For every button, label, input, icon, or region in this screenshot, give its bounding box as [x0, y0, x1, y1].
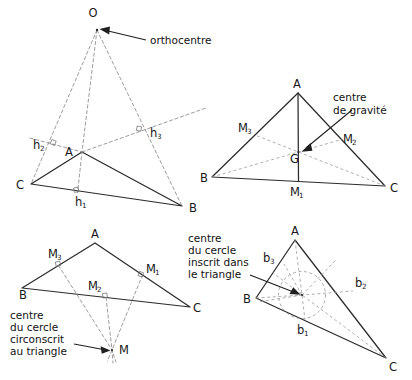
label-inscrit-line2: du cercle: [188, 244, 236, 256]
panel-centre-cercle-inscrit: centre du cercle inscrit dans le triangl…: [188, 224, 397, 374]
label-m1-p3: M 1: [146, 262, 160, 277]
label-vertex-a-p4: A: [291, 224, 299, 238]
label-vertex-c-p1: C: [16, 178, 24, 192]
label-m2-p2: M 2: [343, 132, 357, 147]
bisector-b3-chord: [302, 260, 336, 295]
point-incenter-marker: [301, 294, 303, 296]
svg-text:3: 3: [270, 257, 275, 266]
triangle-abc-incenter: [256, 240, 386, 358]
label-m2-p3: M 2: [88, 279, 102, 294]
altitude-h3: [97, 30, 182, 206]
label-point-g: G: [290, 152, 299, 166]
label-m1-p2: M 1: [290, 185, 304, 200]
svg-text:3: 3: [157, 132, 162, 141]
label-b3-p4: b 3: [263, 251, 275, 266]
label-circonscrit-line2: du cercle: [10, 321, 58, 333]
incenter-arrow-line: [250, 275, 296, 293]
right-angle-h3-marker: [136, 126, 141, 131]
svg-text:1: 1: [299, 191, 304, 200]
triangle-abc-orthocentre: [31, 152, 182, 206]
incenter-arrow-head: [290, 287, 301, 295]
svg-text:2: 2: [352, 138, 357, 147]
svg-text:3: 3: [247, 127, 252, 136]
svg-text:1: 1: [82, 201, 87, 210]
label-vertex-b-p2: B: [200, 171, 208, 185]
line-ac-extension: [82, 108, 206, 152]
label-vertex-c-p2: C: [390, 181, 398, 195]
label-b1-p4: b 1: [297, 323, 309, 338]
label-centre-gravite-line2: de gravité: [333, 104, 387, 116]
svg-text:2: 2: [40, 144, 45, 153]
perp-bisector-m2: [106, 298, 113, 364]
label-vertex-c-p3: C: [193, 301, 201, 315]
label-point-m: M: [119, 343, 129, 357]
label-h3: h 3: [150, 126, 162, 141]
svg-text:1: 1: [155, 268, 160, 277]
label-circonscrit-line4: au triangle: [10, 345, 67, 357]
label-inscrit-line1: centre: [188, 232, 222, 244]
altitude-h2: [31, 30, 97, 184]
median-a-m1: [298, 93, 299, 182]
label-vertex-b-p4: B: [243, 292, 251, 306]
label-vertex-b-p1: B: [189, 201, 197, 215]
median-c-m3: [255, 135, 385, 186]
panel-orthocentre: O orthocentre A B C h 1 h 2 h 3: [16, 6, 212, 215]
label-vertex-a-p1: A: [65, 145, 73, 159]
geometry-figure: O orthocentre A B C h 1 h 2 h 3 centr: [0, 0, 412, 380]
point-m-marker: [111, 349, 113, 351]
label-vertex-b-p3: B: [19, 288, 27, 302]
panel-centre-cercle-circonscrit: centre du cercle circonscrit au triangle…: [10, 227, 201, 363]
panel-centre-de-gravite: centre de gravité A B C G M 1 M 2 M 3: [200, 77, 398, 200]
label-h2: h 2: [33, 138, 45, 153]
svg-text:3: 3: [57, 253, 62, 262]
svg-text:2: 2: [97, 285, 102, 294]
label-vertex-a-p3: A: [91, 227, 99, 241]
point-o-marker: [96, 29, 98, 31]
label-point-o: O: [88, 6, 97, 20]
label-centre-gravite-line1: centre: [333, 91, 367, 103]
centroid-arrow-head: [302, 143, 313, 152]
orthocentre-arrow-head: [100, 26, 111, 34]
label-inscrit-line3: inscrit dans: [188, 256, 249, 268]
label-circonscrit-line1: centre: [10, 309, 44, 321]
svg-text:2: 2: [362, 282, 367, 291]
label-circonscrit-line3: circonscrit: [10, 333, 64, 345]
circumcenter-arrow-head: [101, 346, 111, 354]
label-orthocentre: orthocentre: [150, 34, 212, 46]
orthocentre-arrow-line: [104, 30, 146, 40]
label-m3-p2: M 3: [238, 121, 252, 136]
label-h1: h 1: [75, 195, 87, 210]
label-vertex-c-p4: C: [389, 360, 397, 374]
altitude-h1: [78, 30, 97, 193]
label-vertex-a-p2: A: [293, 77, 301, 91]
label-b2-p4: b 2: [355, 276, 367, 291]
svg-text:1: 1: [304, 329, 309, 338]
label-m3-p3: M 3: [48, 247, 62, 262]
label-inscrit-line4: le triangle: [188, 268, 241, 280]
